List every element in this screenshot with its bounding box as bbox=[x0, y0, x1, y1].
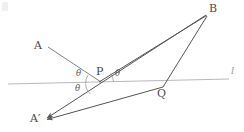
line-label-l: l bbox=[231, 66, 234, 76]
geometry-figure: A B P Q A′ l θ θ θ bbox=[0, 0, 244, 132]
point-label-A: A bbox=[34, 40, 42, 51]
segment-Aprime-to-B bbox=[47, 15, 206, 118]
segment-A-to-P bbox=[48, 47, 101, 82]
point-label-Q: Q bbox=[157, 88, 166, 99]
angle-label-theta-incident: θ bbox=[76, 69, 81, 78]
segment-Q-to-Aprime bbox=[47, 87, 163, 120]
point-label-B: B bbox=[209, 3, 217, 14]
point-label-A-prime: A′ bbox=[30, 113, 40, 124]
angle-label-theta-reflected: θ bbox=[115, 69, 120, 78]
segment-Q-to-B bbox=[163, 16, 207, 87]
line-l bbox=[8, 79, 229, 84]
angle-label-theta-vertical: θ bbox=[75, 84, 80, 93]
point-label-P: P bbox=[96, 66, 103, 77]
